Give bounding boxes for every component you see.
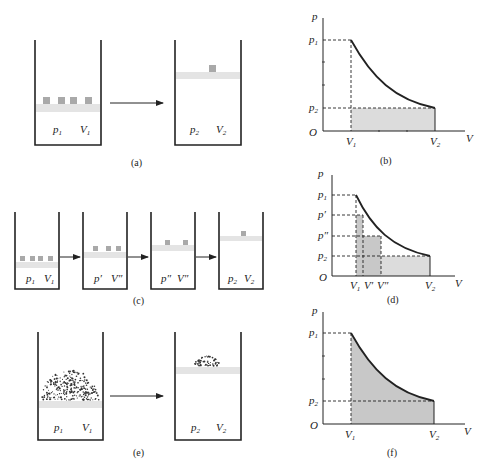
weight-block	[70, 97, 77, 104]
sand-pile-small	[194, 356, 220, 367]
volume-label: V2	[244, 272, 255, 286]
y-tick-p2: p2	[317, 249, 328, 263]
panel-a: p1 V1 p2 V2 (a)	[35, 40, 241, 169]
shaded-work-area	[351, 333, 434, 424]
container-a1: p1 V1	[35, 40, 101, 145]
thermodynamics-expansion-figure: p1 V1 p2 V2 (a) p V O p1 p2 V1 V2 (b)	[0, 0, 481, 473]
weight-block	[20, 256, 25, 261]
pressure-label: p1	[52, 123, 62, 137]
container-c1: p1 V1	[15, 212, 59, 289]
pressure-label: p′	[93, 272, 103, 284]
weight-block	[209, 65, 216, 72]
container-c2: p′ V″	[83, 212, 127, 289]
piston	[176, 72, 240, 79]
x-tick-v2: V2	[429, 428, 440, 442]
panel-c: p1 V1 p′ V″ p″ V″ p2	[15, 212, 263, 307]
origin-label: O	[309, 126, 317, 138]
weight-block	[93, 246, 98, 251]
origin-label: O	[319, 271, 327, 283]
panel-b-pv-diagram: p V O p1 p2 V1 V2 (b)	[308, 10, 474, 167]
cylinder	[219, 212, 263, 289]
panel-d-pv-diagram: p V O p1 p′ p″ p2 V1 V′ V″ V2 (d)	[317, 167, 463, 306]
volume-label: V2	[216, 421, 227, 435]
container-c4: p2 V2	[219, 212, 263, 289]
pressure-label: p″	[160, 272, 172, 284]
weight-block	[48, 256, 53, 261]
volume-label: V″	[177, 272, 189, 284]
y-tick-p1: p1	[317, 188, 327, 202]
piston	[39, 401, 102, 408]
piston	[16, 262, 58, 268]
x-axis-label: V	[464, 425, 472, 437]
weight-block	[85, 97, 92, 104]
weight-block	[43, 97, 50, 104]
weight-block	[30, 256, 35, 261]
origin-label: O	[310, 419, 318, 431]
y-tick-p-double-prime: p″	[317, 229, 329, 241]
panel-caption: (b)	[380, 155, 392, 167]
pressure-label: p2	[227, 272, 238, 286]
panel-caption: (e)	[133, 447, 144, 459]
x-tick-v-double-prime: V″	[377, 279, 389, 291]
x-axis-label: V	[466, 132, 474, 144]
x-tick-v1: V1	[345, 428, 355, 442]
x-tick-v-prime: V′	[364, 279, 374, 291]
y-tick-p1: p1	[308, 326, 318, 340]
y-tick-p1: p1	[308, 33, 318, 47]
pressure-label: p1	[53, 421, 63, 435]
volume-label: V1	[80, 123, 90, 137]
panel-e: p1 V1 p2 V2 (e)	[38, 332, 241, 459]
y-axis-label: p	[317, 167, 324, 179]
panel-caption: (d)	[387, 294, 399, 306]
weight-block	[165, 240, 170, 245]
shaded-step-1	[356, 215, 363, 276]
piston	[152, 245, 194, 251]
cylinder	[35, 40, 101, 145]
panel-f-pv-diagram: p V O p1 p2 V1 V2 (f)	[308, 304, 472, 459]
volume-label: V″	[111, 272, 123, 284]
y-tick-p2: p2	[308, 394, 319, 408]
isotherm-curve	[351, 40, 435, 108]
weight-block	[106, 246, 111, 251]
weight-block	[116, 246, 121, 251]
pressure-label: p1	[25, 272, 35, 286]
container-e2: p2 V2	[175, 332, 241, 440]
weight-block	[241, 231, 246, 236]
y-tick-p-prime: p′	[317, 208, 327, 220]
shaded-step-3	[381, 256, 430, 276]
piston	[176, 367, 240, 374]
weight-block	[183, 240, 188, 245]
y-tick-p2: p2	[308, 101, 319, 115]
volume-label: V2	[216, 123, 227, 137]
pressure-label: p2	[190, 421, 201, 435]
container-a2: p2 V2	[175, 40, 241, 145]
shaded-work-area	[351, 108, 435, 131]
piston	[220, 236, 262, 241]
y-axis-label: p	[311, 10, 318, 22]
x-tick-v2: V2	[430, 135, 441, 149]
volume-label: V1	[82, 421, 92, 435]
sand-pile-large	[41, 370, 99, 401]
cylinder	[175, 40, 241, 145]
x-tick-v1: V1	[350, 279, 360, 293]
weight-block	[38, 256, 43, 261]
cylinder	[175, 332, 241, 440]
x-tick-v1: V1	[346, 135, 356, 149]
panel-caption: (f)	[387, 447, 397, 459]
x-tick-v2: V2	[425, 279, 436, 293]
x-axis-label: V	[455, 277, 463, 289]
panel-caption: (a)	[131, 157, 142, 169]
weight-block	[58, 97, 65, 104]
volume-label: V1	[44, 272, 54, 286]
container-c3: p″ V″	[151, 212, 195, 289]
y-axis-label: p	[311, 304, 318, 316]
piston	[84, 252, 126, 258]
pressure-label: p2	[189, 123, 200, 137]
container-e1: p1 V1	[38, 332, 103, 440]
piston	[36, 104, 100, 112]
panel-caption: (c)	[133, 295, 144, 307]
